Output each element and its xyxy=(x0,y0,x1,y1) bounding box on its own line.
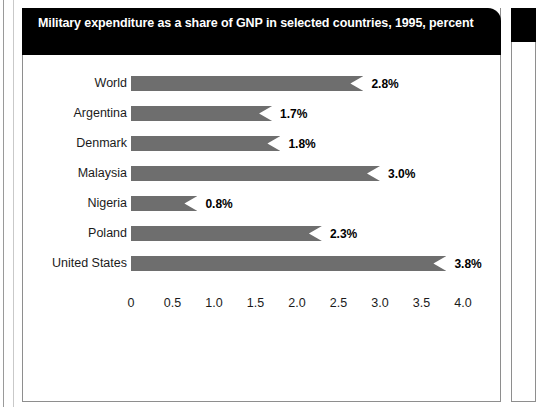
chart-title-bar: Military expenditure as a share of GNP i… xyxy=(22,8,501,55)
x-axis-tick-label: 4.0 xyxy=(443,296,483,310)
page-title: Military expenditure as a share of GNP i… xyxy=(38,15,487,32)
category-label: United States xyxy=(22,248,127,278)
x-axis-tick-label: 1.0 xyxy=(194,296,234,310)
bar-value-label: 3.0% xyxy=(388,166,415,181)
figure-page: Military expenditure as a share of GNP i… xyxy=(0,0,536,407)
bar-container: 2.8% xyxy=(131,68,423,98)
bar-row: United States3.8% xyxy=(22,248,501,278)
bar-value-label: 1.8% xyxy=(288,136,315,151)
bar-container: 1.7% xyxy=(131,98,332,128)
x-axis: 00.51.01.52.02.53.03.54.0 xyxy=(22,296,501,318)
bar-value-label: 1.7% xyxy=(280,106,307,121)
x-axis-tick-label: 0 xyxy=(111,296,151,310)
bar xyxy=(131,226,322,241)
bar-row: World2.8% xyxy=(22,68,501,98)
bar-container: 2.3% xyxy=(131,218,382,248)
bar xyxy=(131,106,272,121)
bar xyxy=(131,166,380,181)
x-axis-tick-label: 0.5 xyxy=(153,296,193,310)
bar-chart-plot-area: World2.8%Argentina1.7%Denmark1.8%Malaysi… xyxy=(22,56,501,326)
bar-row: Nigeria0.8% xyxy=(22,188,501,218)
category-label: Argentina xyxy=(22,98,127,128)
bar-row: Malaysia3.0% xyxy=(22,158,501,188)
bar-container: 0.8% xyxy=(131,188,257,218)
bar-value-label: 2.8% xyxy=(371,76,398,91)
bar-value-label: 0.8% xyxy=(205,196,232,211)
category-label: Malaysia xyxy=(22,158,127,188)
category-label: World xyxy=(22,68,127,98)
bar-row: Poland2.3% xyxy=(22,218,501,248)
adjacent-figure-panel xyxy=(511,8,536,402)
bar xyxy=(131,256,446,271)
page-gutter-line-outer xyxy=(3,0,4,407)
bar xyxy=(131,196,197,211)
bar xyxy=(131,76,363,91)
bar-value-label: 3.8% xyxy=(454,256,481,271)
page-gutter-line-inner xyxy=(13,0,14,407)
adjacent-figure-title-bar xyxy=(511,8,536,42)
category-label: Poland xyxy=(22,218,127,248)
bar xyxy=(131,136,280,151)
bar-value-label: 2.3% xyxy=(330,226,357,241)
bar-container: 1.8% xyxy=(131,128,340,158)
category-label: Denmark xyxy=(22,128,127,158)
category-label: Nigeria xyxy=(22,188,127,218)
bar-container: 3.0% xyxy=(131,158,440,188)
bar-container: 3.8% xyxy=(131,248,506,278)
x-axis-tick-label: 2.5 xyxy=(319,296,359,310)
x-axis-tick-label: 3.5 xyxy=(402,296,442,310)
bar-row: Argentina1.7% xyxy=(22,98,501,128)
x-axis-tick-label: 3.0 xyxy=(360,296,400,310)
x-axis-tick-label: 1.5 xyxy=(236,296,276,310)
x-axis-tick-label: 2.0 xyxy=(277,296,317,310)
bar-row: Denmark1.8% xyxy=(22,128,501,158)
